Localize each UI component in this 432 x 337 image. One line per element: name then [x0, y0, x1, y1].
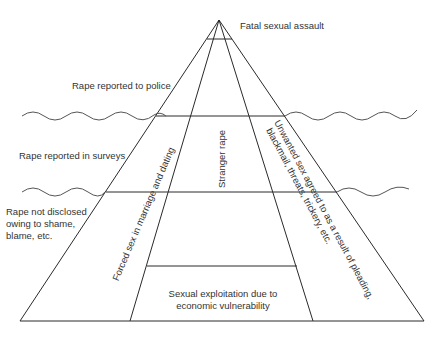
label-line: economic vulnerability: [150, 300, 296, 312]
label-stranger-rape: Stranger rape: [216, 130, 228, 188]
label-line: Rape not disclosed: [6, 206, 87, 218]
label-line: owing to shame,: [6, 218, 87, 230]
label-line: blame, etc.: [6, 230, 87, 242]
label-rape-reported-in-surveys: Rape reported in surveys: [19, 150, 125, 162]
label-fatal-sexual-assault: Fatal sexual assault: [240, 20, 324, 32]
label-line: Sexual exploitation due to: [150, 288, 296, 300]
label-rape-reported-to-police: Rape reported to police: [72, 80, 171, 92]
label-sexual-exploitation: Sexual exploitation due to economic vuln…: [150, 288, 296, 312]
label-rape-not-disclosed: Rape not disclosed owing to shame, blame…: [6, 206, 87, 242]
